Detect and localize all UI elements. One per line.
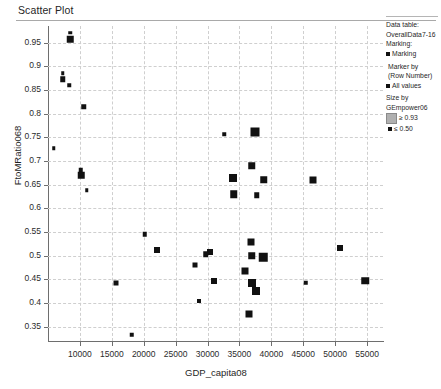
gridline-vertical xyxy=(144,26,145,341)
x-axis-title: GDP_capita08 xyxy=(48,367,384,378)
x-tick-label: 55000 xyxy=(355,349,379,359)
legend-all-values-item[interactable]: All values xyxy=(386,81,441,91)
legend-marker-by-label: Marker by xyxy=(386,62,441,72)
scatter-point[interactable] xyxy=(207,249,213,255)
y-tick-label: 0.85 xyxy=(0,84,41,94)
y-tick-mark xyxy=(44,43,48,44)
scatter-point[interactable] xyxy=(361,277,369,285)
y-tick-mark xyxy=(44,327,48,328)
y-tick-mark xyxy=(44,161,48,162)
scatter-point[interactable] xyxy=(248,162,256,170)
gridline-vertical xyxy=(335,26,336,341)
gridline-vertical xyxy=(208,26,209,341)
legend-size-large-label: ≥ 0.93 xyxy=(399,113,418,123)
scatter-point[interactable] xyxy=(113,280,118,285)
scatter-point[interactable] xyxy=(337,245,343,251)
x-tick-mark xyxy=(144,342,145,346)
scatter-point[interactable] xyxy=(246,310,253,317)
legend-data-table-value[interactable]: OverallData7-16 xyxy=(386,30,441,40)
scatter-point[interactable] xyxy=(143,232,148,237)
gridline-horizontal xyxy=(48,90,383,91)
all-values-swatch-icon xyxy=(386,84,390,88)
y-axis-title: FtoMRatio068 xyxy=(12,101,23,211)
scatter-point[interactable] xyxy=(247,238,254,245)
scatter-point[interactable] xyxy=(211,278,217,284)
gridline-vertical xyxy=(367,26,368,341)
legend-marking-item-label: Marking xyxy=(392,49,416,59)
scatter-point[interactable] xyxy=(197,299,201,303)
legend-marking-item[interactable]: Marking xyxy=(386,49,441,59)
scatter-point[interactable] xyxy=(230,190,238,198)
scatter-point[interactable] xyxy=(259,253,268,262)
legend-size-by-value[interactable]: GEmpower06 xyxy=(386,103,441,113)
scatter-point[interactable] xyxy=(61,72,65,76)
scatter-point[interactable] xyxy=(310,176,317,183)
x-tick-label: 35000 xyxy=(228,349,252,359)
y-tick-label: 0.45 xyxy=(0,273,41,283)
x-tick-mark xyxy=(208,342,209,346)
page-title: Scatter Plot xyxy=(18,4,73,16)
y-tick-mark xyxy=(44,232,48,233)
y-tick-label: 0.95 xyxy=(0,37,41,47)
legend-size-by-label: Size by xyxy=(386,93,441,103)
y-tick-mark xyxy=(44,137,48,138)
gridline-vertical xyxy=(176,26,177,341)
x-tick-mark xyxy=(367,342,368,346)
scatter-point[interactable] xyxy=(68,31,72,35)
y-tick-mark xyxy=(44,66,48,67)
y-tick-label: 0.9 xyxy=(0,60,41,70)
x-tick-mark xyxy=(239,342,240,346)
scatter-point[interactable] xyxy=(81,104,87,110)
scatter-point[interactable] xyxy=(129,333,134,338)
gridline-horizontal xyxy=(48,66,383,67)
plot-canvas[interactable] xyxy=(48,26,383,341)
y-tick-label: 0.35 xyxy=(0,321,41,331)
scatter-point[interactable] xyxy=(78,172,85,179)
size-large-swatch-icon xyxy=(386,113,397,124)
scatter-point[interactable] xyxy=(254,192,260,198)
gridline-horizontal xyxy=(48,256,383,257)
title-divider xyxy=(16,20,436,21)
scatter-point[interactable] xyxy=(154,247,160,253)
legend-panel: Data table: OverallData7-16 Marking: Mar… xyxy=(386,16,441,133)
scatter-point[interactable] xyxy=(67,83,71,87)
scatter-point[interactable] xyxy=(248,279,256,287)
gridline-horizontal xyxy=(48,137,383,138)
scatter-point[interactable] xyxy=(304,280,309,285)
x-tick-label: 25000 xyxy=(164,349,188,359)
legend-data-table-label: Data table: xyxy=(386,20,441,30)
y-tick-label: 0.4 xyxy=(0,297,41,307)
scatter-point[interactable] xyxy=(222,132,226,136)
gridline-horizontal xyxy=(48,232,383,233)
legend-divider xyxy=(386,16,438,17)
y-tick-mark xyxy=(44,303,48,304)
scatter-point[interactable] xyxy=(250,127,259,136)
scatter-point[interactable] xyxy=(260,176,268,184)
gridline-vertical xyxy=(239,26,240,341)
gridline-horizontal xyxy=(48,208,383,209)
gridline-horizontal xyxy=(48,327,383,328)
gridline-vertical xyxy=(112,26,113,341)
x-tick-mark xyxy=(303,342,304,346)
y-tick-mark xyxy=(44,256,48,257)
y-tick-mark xyxy=(44,208,48,209)
legend-marker-by-value[interactable]: (Row Number) xyxy=(386,71,441,81)
gridline-horizontal xyxy=(48,185,383,186)
scatter-point[interactable] xyxy=(192,263,197,268)
scatter-point[interactable] xyxy=(60,76,66,82)
scatter-point[interactable] xyxy=(67,36,74,43)
window-title-bar: Scatter Plot xyxy=(0,0,441,22)
gridline-vertical xyxy=(271,26,272,341)
scatter-point[interactable] xyxy=(248,252,256,260)
x-tick-label: 40000 xyxy=(260,349,284,359)
scatter-point[interactable] xyxy=(229,174,237,182)
scatter-point[interactable] xyxy=(85,189,89,193)
x-tick-mark xyxy=(112,342,113,346)
x-tick-mark xyxy=(335,342,336,346)
y-tick-mark xyxy=(44,185,48,186)
scatter-point[interactable] xyxy=(52,146,56,150)
legend-all-values-label: All values xyxy=(392,81,421,91)
scatter-point[interactable] xyxy=(252,287,260,295)
scatter-point[interactable] xyxy=(242,267,249,274)
y-tick-mark xyxy=(44,279,48,280)
